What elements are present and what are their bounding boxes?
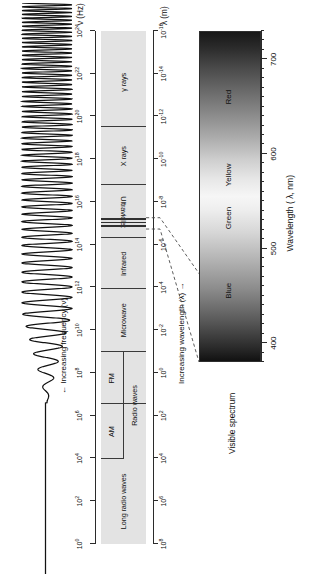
nm-minor-tick: [261, 238, 264, 239]
nm-minor-tick: [261, 257, 264, 258]
visible-light-stripe: [101, 222, 146, 223]
frequency-tick-label: 104: [76, 448, 83, 470]
visible-light-stripe: [101, 218, 146, 220]
frequency-tick: [90, 287, 95, 288]
wavelength-tick-label: 10-12: [160, 105, 167, 129]
nm-minor-tick: [261, 333, 264, 334]
nm-minor-tick: [261, 49, 264, 50]
frequency-tick: [90, 244, 95, 245]
nm-minor-tick: [261, 134, 264, 135]
nm-minor-tick: [261, 68, 264, 69]
nm-minor-tick: [261, 125, 264, 126]
nm-major-tick: [261, 58, 267, 59]
wavelength-tick-label: 10-14: [160, 62, 167, 86]
frequency-tick: [90, 458, 95, 459]
frequency-tick: [90, 116, 95, 117]
frequency-tick-label: 1016: [76, 191, 83, 213]
nm-minor-tick: [261, 229, 264, 230]
frequency-caption-text: Increasing frequency (ν): [59, 298, 68, 384]
nm-minor-tick: [261, 191, 264, 192]
nm-axis-title: Wavelength ( λ, nm): [285, 175, 295, 252]
nm-minor-tick: [261, 106, 264, 107]
figure-canvas: 1001021041061081010101210141016101810201…: [3, 3, 327, 574]
wavelength-tick: [153, 458, 158, 459]
frequency-tick-label: 1014: [76, 234, 83, 256]
nm-minor-tick: [261, 87, 264, 88]
wavelength-axis-title: λ (m): [160, 6, 169, 25]
nm-minor-tick: [261, 361, 264, 362]
rotated-figure-container: 1001021041061081010101210141016101810201…: [3, 3, 327, 574]
band-label-fm: FM: [107, 343, 116, 413]
nm-minor-tick: [261, 115, 264, 116]
wavelength-tick-label: 10-4: [160, 276, 167, 300]
wavelength-tick-label: 10-6: [160, 233, 167, 257]
visible-light-stripe: [101, 225, 146, 227]
nm-minor-tick: [261, 181, 264, 182]
wavelength-tick: [153, 201, 158, 202]
band-label-rays: γ rays: [119, 47, 128, 117]
wavelength-tick: [153, 372, 158, 373]
wavelength-tick: [153, 329, 158, 330]
color-label-yellow: Yellow: [224, 152, 233, 198]
wavelength-axis-line: [153, 31, 154, 544]
nm-axis-line: [261, 31, 262, 362]
frequency-axis-title: ν (Hz): [76, 3, 85, 25]
nm-tick-label: 500: [269, 237, 278, 261]
nm-minor-tick: [261, 77, 264, 78]
band-label-radio-waves: Radio waves: [130, 371, 139, 441]
nm-minor-tick: [261, 30, 264, 31]
nm-minor-tick: [261, 276, 264, 277]
frequency-tick-label: 108: [76, 362, 83, 384]
frequency-tick-label: 1018: [76, 148, 83, 170]
spectrum-bar: Long radio wavesAMFMRadio wavesMicrowave…: [101, 31, 146, 544]
nm-minor-tick: [261, 323, 264, 324]
nm-minor-tick: [261, 172, 264, 173]
wavelength-tick-label: 108: [160, 532, 167, 556]
nm-minor-tick: [261, 144, 264, 145]
wavelength-tick-label: 102: [160, 404, 167, 428]
nm-major-tick: [261, 153, 267, 154]
wavelength-axis-caption: Increasing wavelength (λ) →: [177, 283, 186, 384]
wavelength-tick: [153, 415, 158, 416]
frequency-tick-label: 1020: [76, 106, 83, 128]
radio-subband-divider: [123, 352, 124, 459]
frequency-tick: [90, 329, 95, 330]
nm-minor-tick: [261, 210, 264, 211]
frequency-tick-label: 106: [76, 405, 83, 427]
nm-minor-tick: [261, 352, 264, 353]
frequency-tick: [90, 372, 95, 373]
frequency-tick: [90, 30, 95, 31]
frequency-tick: [90, 500, 95, 501]
wavelength-tick: [153, 287, 158, 288]
frequency-tick: [90, 73, 95, 74]
frequency-tick-label: 100: [76, 533, 83, 555]
waveform-illustration: [9, 3, 73, 574]
wavelength-tick-label: 104: [160, 447, 167, 471]
wavelength-tick: [153, 244, 158, 245]
frequency-tick: [90, 415, 95, 416]
nm-minor-tick: [261, 285, 264, 286]
frequency-axis-line: [95, 31, 96, 544]
wavelength-tick: [153, 543, 158, 544]
wavelength-tick-label: 10-2: [160, 318, 167, 342]
frequency-tick: [90, 201, 95, 202]
frequency-tick: [90, 158, 95, 159]
color-label-red: Red: [224, 74, 233, 120]
nm-minor-tick: [261, 295, 264, 296]
nm-minor-tick: [261, 200, 264, 201]
frequency-arrow-icon: ←: [59, 386, 68, 394]
color-label-blue: Blue: [224, 268, 233, 314]
frequency-tick-label: 1012: [76, 277, 83, 299]
nm-tick-label: 600: [269, 142, 278, 166]
frequency-tick-label: 1010: [76, 319, 83, 341]
frequency-axis-caption: ← Increasing frequency (ν): [59, 298, 68, 394]
nm-minor-tick: [261, 162, 264, 163]
wavelength-caption-text: Increasing wavelength (λ): [177, 293, 186, 384]
frequency-tick: [90, 543, 95, 544]
nm-minor-tick: [261, 39, 264, 40]
band-label-x-rays: X rays: [119, 121, 128, 191]
visible-spectrum-title: Visible spectrum: [227, 393, 237, 454]
wavelength-tick-label: 10-8: [160, 190, 167, 214]
color-label-green: Green: [224, 195, 233, 241]
nm-major-tick: [261, 342, 267, 343]
